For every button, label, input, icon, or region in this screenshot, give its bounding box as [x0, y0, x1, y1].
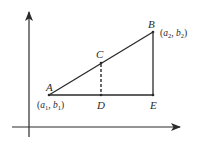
point-c	[100, 62, 103, 65]
point-a	[48, 94, 51, 97]
label-d: D	[96, 99, 105, 111]
point-e	[152, 94, 155, 97]
label-b: B	[148, 18, 155, 30]
label-c: C	[96, 48, 104, 60]
label-a: A	[45, 81, 53, 93]
coord-label-a: (a1, b1)	[37, 100, 64, 111]
point-d	[100, 94, 103, 97]
point-b	[152, 31, 155, 34]
coordinate-diagram: A B C D E (a1, b1) (a2, b2)	[0, 0, 199, 144]
coord-label-b: (a2, b2)	[160, 28, 187, 39]
label-e: E	[149, 99, 157, 111]
